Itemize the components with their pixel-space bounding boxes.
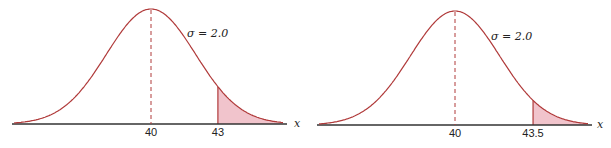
normal-curve-panel-right: 4043.5xσ = 2.0 (317, 11, 604, 139)
x-axis-label: x (597, 118, 604, 131)
tick-label-mean: 40 (145, 126, 157, 138)
tick-label-cutoff: 43.5 (522, 127, 543, 139)
sigma-annotation: σ = 2.0 (491, 30, 532, 43)
tick-label-cutoff: 43 (212, 126, 224, 138)
shaded-tail-area (218, 87, 283, 124)
x-axis-label: x (294, 117, 301, 130)
tick-label-mean: 40 (449, 127, 461, 139)
figure: 4043xσ = 2.0 4043.5xσ = 2.0 (0, 0, 611, 148)
normal-curve (14, 9, 283, 123)
sigma-annotation: σ = 2.0 (187, 27, 228, 40)
normal-curve (319, 11, 588, 124)
shaded-tail-area (533, 100, 588, 125)
normal-curve-panel-left: 4043xσ = 2.0 (12, 9, 301, 138)
